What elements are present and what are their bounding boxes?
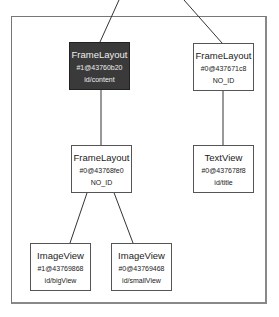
node-class: TextView: [194, 152, 253, 163]
node-id: NO_ID: [194, 77, 253, 85]
node-textview-title[interactable]: TextView #0@437678f8 id/title: [193, 145, 254, 193]
node-hash: #0@43769468: [112, 265, 171, 273]
node-id: id/bigView: [31, 277, 90, 285]
node-class: ImageView: [31, 250, 90, 261]
node-framelayout-middle[interactable]: FrameLayout #0@43768fe0 NO_ID: [71, 145, 132, 193]
node-class: ImageView: [112, 250, 171, 261]
node-hash: #1@43760b20: [70, 64, 129, 72]
node-id: id/content: [70, 76, 129, 84]
node-id: NO_ID: [72, 179, 131, 187]
node-framelayout-right[interactable]: FrameLayout #0@437671c8 NO_ID: [193, 43, 254, 91]
node-hash: #1@43769868: [31, 265, 90, 273]
node-class: FrameLayout: [70, 49, 129, 60]
node-imageview-smallview[interactable]: ImageView #0@43769468 id/smallView: [111, 243, 172, 291]
node-id: id/smallView: [112, 277, 171, 285]
node-class: FrameLayout: [72, 152, 131, 163]
node-hash: #0@43768fe0: [72, 167, 131, 175]
node-hash: #0@437678f8: [194, 167, 253, 175]
node-hash: #0@437671c8: [194, 65, 253, 73]
node-imageview-bigview[interactable]: ImageView #1@43769868 id/bigView: [30, 243, 91, 291]
node-class: FrameLayout: [194, 50, 253, 61]
node-framelayout-content[interactable]: FrameLayout #1@43760b20 id/content: [69, 42, 130, 90]
node-id: id/title: [194, 179, 253, 187]
